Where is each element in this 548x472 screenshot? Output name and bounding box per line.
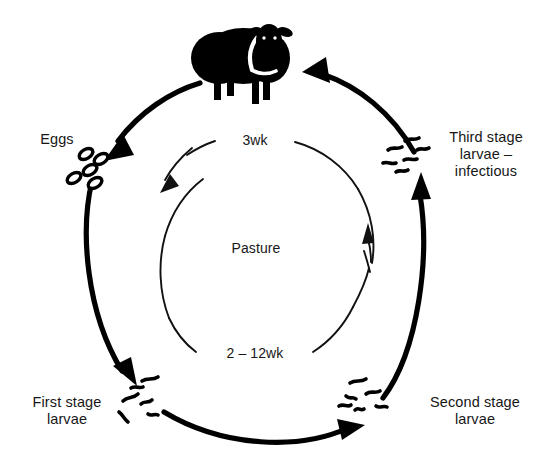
inner-arc-label-3wk: 3wk [220, 132, 290, 149]
node-label-third-stage-larvae: Third stage larvae – infectious [430, 129, 542, 180]
eggs-icon [65, 146, 110, 191]
node-label-first-stage-larvae: First stage larvae [6, 394, 128, 428]
sheep-icon [191, 24, 294, 104]
center-label-pasture: Pasture [204, 240, 308, 257]
arrow-eggs-to-first-stage [86, 181, 137, 386]
inner-arc-label-2-12wk: 2 – 12wk [200, 345, 310, 362]
life-cycle-diagram: Eggs Third stage larvae – infectious Fir… [0, 0, 548, 472]
arrow-host-to-eggs [104, 83, 200, 161]
node-label-second-stage-larvae: Second stage larvae [410, 394, 540, 428]
arrow-second-stage-to-third-stage [383, 172, 431, 398]
inner-arc-bottom [160, 179, 374, 352]
arrow-third-stage-to-host [302, 57, 414, 152]
arrow-first-stage-to-second-stage [164, 412, 365, 442]
second-stage-larvae-icon [339, 379, 387, 410]
node-label-eggs: Eggs [18, 131, 96, 148]
